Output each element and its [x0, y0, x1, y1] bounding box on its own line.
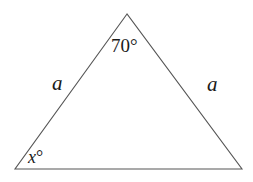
left-side-label: a [52, 73, 63, 94]
base-angle-label: x° [28, 148, 43, 166]
apex-angle-label: 70° [111, 36, 138, 55]
triangle-diagram: 70° a a x° [0, 0, 253, 182]
base-angle-var: x [28, 147, 36, 167]
right-side-label: a [207, 74, 218, 95]
degree-symbol: ° [36, 147, 43, 167]
